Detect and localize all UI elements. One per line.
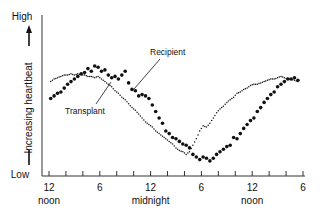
data-point (174, 137, 178, 141)
data-point (76, 75, 80, 79)
data-point (164, 129, 168, 133)
data-point (208, 159, 212, 163)
data-point (146, 122, 148, 124)
data-point (97, 76, 99, 78)
data-point (74, 74, 76, 76)
annotation-transplant: Transplant (65, 106, 105, 116)
data-point (138, 113, 140, 115)
data-point (181, 142, 185, 146)
data-point (202, 125, 204, 127)
data-point (77, 73, 79, 75)
data-point (103, 68, 107, 72)
data-point (86, 75, 88, 77)
data-point (123, 98, 125, 100)
data-point (240, 91, 242, 93)
data-point (205, 157, 209, 161)
data-point (117, 77, 121, 81)
heartbeat-chart: High Increasing heartbeat Low 12noon612m… (0, 0, 321, 217)
data-point (50, 81, 52, 83)
data-point (56, 92, 60, 96)
data-point (140, 93, 144, 97)
data-point (167, 132, 171, 136)
data-point (63, 74, 65, 76)
data-point (106, 82, 108, 84)
data-point (94, 77, 96, 79)
data-point (243, 89, 245, 91)
data-point (147, 97, 151, 101)
data-point (86, 67, 90, 71)
data-point (130, 88, 134, 92)
x-axis-tick-labels: 12noon612midnight612noon6 (38, 182, 306, 206)
data-point (130, 105, 132, 107)
data-point (96, 66, 100, 70)
data-point (120, 73, 124, 77)
data-point (204, 126, 206, 128)
data-point (187, 152, 189, 154)
data-point (216, 112, 218, 114)
data-point (212, 157, 216, 161)
data-point (150, 125, 152, 127)
data-point (179, 150, 181, 152)
data-point (239, 132, 243, 136)
data-point (155, 130, 157, 132)
data-point (107, 73, 111, 77)
data-point (275, 78, 277, 80)
data-point (218, 150, 222, 154)
data-point (133, 108, 135, 110)
data-point (154, 110, 158, 114)
data-point (293, 76, 297, 80)
data-point (65, 74, 67, 76)
data-point (69, 80, 73, 84)
x-tick-label: 6 (199, 182, 205, 193)
data-point (144, 94, 148, 98)
data-point (232, 136, 236, 140)
data-point (219, 108, 221, 110)
data-point (235, 95, 237, 97)
data-point (196, 138, 198, 140)
data-point (258, 83, 260, 85)
data-point (282, 76, 284, 78)
data-point (269, 93, 273, 97)
data-point (62, 75, 64, 77)
data-point (194, 141, 196, 143)
data-point (152, 126, 154, 128)
data-point (199, 130, 201, 132)
data-point (197, 134, 199, 136)
data-point (49, 97, 53, 101)
data-point (101, 78, 103, 80)
data-point (75, 74, 77, 76)
data-point (235, 137, 239, 141)
data-point (195, 155, 199, 159)
data-point (272, 90, 276, 94)
data-point (262, 82, 264, 84)
data-point (89, 76, 91, 78)
data-point (272, 78, 274, 80)
data-point (58, 76, 60, 78)
data-point (250, 85, 252, 87)
data-point (136, 111, 138, 113)
data-point (57, 77, 59, 79)
x-tick-sublabel: noon (241, 195, 263, 206)
data-point (73, 77, 77, 81)
data-point (185, 154, 187, 156)
data-point (110, 76, 114, 80)
data-point (218, 110, 220, 112)
data-point (121, 96, 123, 98)
data-point (201, 128, 203, 130)
data-point (245, 88, 247, 90)
y-axis-low-label: Low (11, 169, 30, 180)
data-point (231, 98, 233, 100)
data-point (127, 81, 131, 85)
x-tick-label: 6 (97, 182, 103, 193)
data-point (53, 78, 55, 80)
data-point (116, 91, 118, 93)
data-point (180, 150, 182, 152)
y-axis-high-label: High (12, 11, 33, 22)
data-point (143, 119, 145, 121)
data-point (221, 107, 223, 109)
data-point (141, 117, 143, 119)
data-point (67, 74, 69, 76)
data-point (99, 77, 101, 79)
annotation-transplant-leader (96, 82, 111, 104)
data-point (223, 106, 225, 108)
